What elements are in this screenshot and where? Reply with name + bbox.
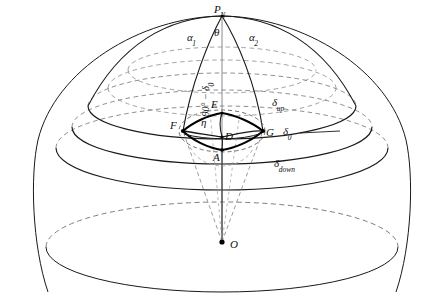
label-point-D: D [225,131,233,142]
sightline-O-to-G [222,131,263,242]
label-point-G: G [266,127,274,138]
label-north-pole: PN [214,4,226,18]
vertex-dot-A [220,148,224,152]
celestial-sphere-diagram: PN α1 θ α2 90° − δ0 E F η D G A δup δ0 δ… [0,0,447,297]
vertex-dot-D [220,135,223,138]
center-dot-O [219,239,224,244]
label-point-E: E [211,99,218,110]
vertex-dot-F [181,129,185,133]
sphere-outline-right [222,16,411,292]
label-delta-down: δdown [274,158,295,172]
label-delta-up: δup [272,97,285,111]
label-point-A: A [213,152,220,163]
label-alpha-2: α2 [249,32,259,46]
label-point-F: F [170,120,177,131]
equator-front-arc [46,247,398,292]
vertex-dot-E [220,111,223,114]
sightline-O-to-F [183,131,222,242]
vertex-dot-G [261,129,265,133]
label-point-O: O [230,239,238,250]
label-alpha-1: α1 [187,32,197,46]
diagram-canvas [0,0,447,297]
label-delta-zero: δ0 [283,126,292,140]
sphere-outline [33,16,222,292]
label-theta: θ [214,27,219,38]
label-eta: η [201,117,206,128]
